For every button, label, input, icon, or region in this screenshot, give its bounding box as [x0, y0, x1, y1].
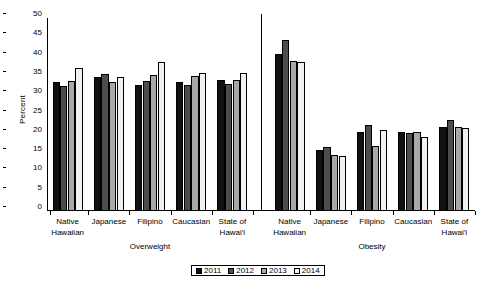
- bar: [75, 68, 82, 211]
- bar: [365, 125, 372, 211]
- bar: [439, 127, 446, 211]
- y-tick-label: 20: [6, 126, 47, 134]
- category-label: State ofHawai'i: [414, 217, 488, 238]
- bar: [109, 82, 116, 211]
- bar-group: [439, 18, 469, 211]
- legend-label-2014: 2014: [302, 267, 320, 275]
- legend: 2011 2012 2013 2014: [191, 265, 325, 276]
- legend-swatch-2011: [196, 268, 202, 274]
- bar: [191, 76, 198, 211]
- bar: [199, 73, 206, 211]
- bar: [233, 80, 240, 211]
- bar: [150, 75, 157, 211]
- bar: [323, 147, 330, 211]
- x-tick-mark: [475, 211, 476, 215]
- y-tick-label: 45: [6, 29, 47, 37]
- bar: [372, 146, 379, 211]
- bar: [240, 73, 247, 211]
- bar: [455, 127, 462, 211]
- x-tick-mark: [88, 211, 89, 215]
- y-tick-mark: [3, 206, 6, 207]
- bar: [184, 85, 191, 211]
- bar: [101, 74, 108, 211]
- bar: [331, 155, 338, 211]
- bar-group: [357, 18, 387, 211]
- bar: [225, 84, 232, 211]
- bar-group: [176, 18, 206, 211]
- bar: [462, 128, 469, 211]
- bar-group: [94, 18, 124, 211]
- y-tick-mark: [3, 90, 6, 91]
- plot-area: 05101520253035404550: [47, 18, 475, 211]
- bar: [60, 86, 67, 211]
- bar: [275, 54, 282, 211]
- bar-group: [135, 18, 165, 211]
- x-tick-mark: [393, 211, 394, 215]
- section-label: Obesity: [322, 242, 422, 251]
- section-divider: [261, 14, 262, 211]
- bar: [143, 81, 150, 211]
- bar: [94, 77, 101, 211]
- x-tick-mark: [171, 211, 172, 215]
- bar-group: [53, 18, 83, 211]
- bar: [176, 82, 183, 211]
- x-tick-mark: [253, 211, 254, 215]
- y-tick-mark: [3, 71, 6, 72]
- bar-group: [217, 18, 247, 211]
- y-tick-label: 10: [6, 164, 47, 172]
- legend-item[interactable]: 2011: [196, 267, 221, 275]
- bar-group: [316, 18, 346, 211]
- bar: [158, 62, 165, 211]
- bar: [297, 62, 304, 211]
- bar: [339, 156, 346, 211]
- y-tick-label: 25: [6, 107, 47, 115]
- x-tick-mark: [310, 211, 311, 215]
- legend-label-2011: 2011: [204, 267, 221, 275]
- legend-item[interactable]: 2014: [294, 267, 320, 275]
- y-tick-mark: [3, 129, 6, 130]
- x-tick-mark: [50, 211, 51, 215]
- section-label: Overweight: [100, 242, 200, 251]
- y-tick-mark: [3, 148, 6, 149]
- bar: [447, 120, 454, 211]
- bar: [398, 132, 405, 211]
- bar: [413, 132, 420, 211]
- y-tick-label: 40: [6, 49, 47, 57]
- y-tick-label: 30: [6, 87, 47, 95]
- legend-item[interactable]: 2012: [228, 267, 254, 275]
- bar-chart: Percent 05101520253035404550 NativeHawai…: [0, 0, 488, 295]
- y-tick-label: 0: [6, 203, 47, 211]
- bar: [357, 132, 364, 211]
- legend-swatch-2014: [294, 268, 300, 274]
- bar: [290, 61, 297, 211]
- y-tick-label: 50: [6, 10, 47, 18]
- bar-group: [275, 18, 305, 211]
- y-tick-mark: [3, 187, 6, 188]
- x-tick-mark: [212, 211, 213, 215]
- legend-item[interactable]: 2013: [261, 267, 287, 275]
- bar: [316, 150, 323, 211]
- y-axis-line: [47, 18, 48, 211]
- y-tick-mark: [3, 167, 6, 168]
- y-tick-mark: [3, 32, 6, 33]
- y-tick-mark: [3, 13, 6, 14]
- bar: [406, 133, 413, 211]
- bar: [117, 77, 124, 211]
- x-tick-mark: [434, 211, 435, 215]
- bar-group: [398, 18, 428, 211]
- y-tick-label: 35: [6, 68, 47, 76]
- y-tick-label: 5: [6, 184, 47, 192]
- x-tick-mark: [351, 211, 352, 215]
- legend-label-2013: 2013: [269, 267, 287, 275]
- bar: [282, 40, 289, 211]
- y-tick-mark: [3, 52, 6, 53]
- bar: [68, 81, 75, 211]
- legend-swatch-2012: [228, 268, 234, 274]
- bar: [421, 137, 428, 211]
- bar: [53, 82, 60, 211]
- y-tick-mark: [3, 110, 6, 111]
- legend-label-2012: 2012: [236, 267, 254, 275]
- bar: [217, 80, 224, 211]
- bar: [380, 130, 387, 211]
- y-tick-label: 15: [6, 145, 47, 153]
